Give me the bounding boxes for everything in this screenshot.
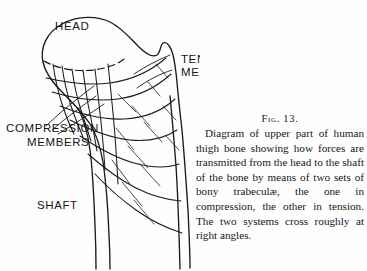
- label-head: HEAD: [55, 20, 89, 32]
- label-tension-line2: MEMBERS: [181, 66, 200, 78]
- tension-leader-lines: [134, 55, 172, 88]
- label-compression-line2: MEMBERS: [27, 136, 89, 148]
- femur-diagram: HEAD TENSION MEMBERS COMPRESSION MEMBERS…: [0, 0, 200, 271]
- figure-page: HEAD TENSION MEMBERS COMPRESSION MEMBERS…: [0, 0, 367, 271]
- label-shaft: SHAFT: [37, 199, 78, 211]
- figure-caption-block: Fig. 13. Diagram of upper part of human …: [196, 112, 364, 243]
- label-tension-line1: TENSION: [181, 53, 200, 65]
- label-compression-line1: COMPRESSION: [6, 122, 99, 134]
- figure-number: Fig. 13.: [196, 112, 364, 125]
- figure-caption-text: Diagram of upper part of human thigh bon…: [196, 126, 364, 243]
- dashed-epiphyseal-line-icon: [44, 59, 124, 71]
